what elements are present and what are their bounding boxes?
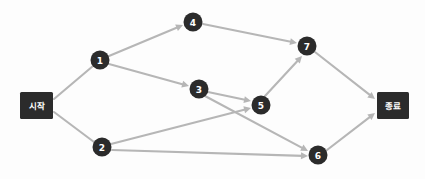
edge-1-3 bbox=[109, 64, 189, 88]
arrowhead-icon bbox=[243, 96, 251, 103]
graph-node-2[interactable]: 2 bbox=[93, 138, 112, 157]
node-label-4: 4 bbox=[190, 18, 196, 28]
edge-6-end bbox=[327, 113, 375, 150]
edge-line bbox=[112, 150, 303, 156]
edge-line bbox=[111, 109, 246, 144]
arrowhead-icon bbox=[301, 152, 308, 159]
terminal-label-start: 시작 bbox=[29, 101, 45, 111]
terminal-label-end: 종료 bbox=[385, 101, 401, 111]
arrowhead-icon bbox=[181, 81, 189, 88]
graph-node-7[interactable]: 7 bbox=[298, 37, 317, 56]
edge-line bbox=[327, 116, 371, 150]
edge-line bbox=[203, 24, 292, 42]
graph-svg: 시작종료1234567 bbox=[0, 0, 425, 179]
node-label-2: 2 bbox=[99, 143, 105, 153]
edge-4-7 bbox=[203, 24, 297, 45]
edge-2-6 bbox=[112, 150, 308, 159]
arrowhead-icon bbox=[243, 106, 251, 113]
diagram-canvas: 시작종료1234567 bbox=[0, 0, 425, 179]
edge-line bbox=[265, 60, 299, 96]
edge-line bbox=[315, 52, 371, 96]
terminal-node-end[interactable]: 종료 bbox=[377, 92, 409, 119]
node-label-3: 3 bbox=[196, 85, 202, 95]
nodes-layer: 시작종료1234567 bbox=[20, 13, 409, 165]
node-label-6: 6 bbox=[315, 151, 321, 161]
edge-7-end bbox=[315, 52, 375, 99]
edge-start-2 bbox=[54, 112, 94, 142]
edge-line bbox=[54, 66, 93, 99]
edge-line bbox=[109, 64, 184, 85]
edge-2-5 bbox=[111, 106, 251, 144]
node-label-5: 5 bbox=[258, 101, 264, 111]
graph-node-1[interactable]: 1 bbox=[91, 51, 110, 70]
terminal-node-start[interactable]: 시작 bbox=[20, 92, 53, 119]
graph-node-6[interactable]: 6 bbox=[309, 146, 328, 165]
edge-1-4 bbox=[109, 24, 183, 56]
edge-line bbox=[208, 92, 246, 100]
graph-node-4[interactable]: 4 bbox=[184, 13, 203, 32]
graph-node-5[interactable]: 5 bbox=[252, 96, 271, 115]
graph-node-3[interactable]: 3 bbox=[190, 80, 209, 99]
edge-line bbox=[109, 27, 178, 56]
node-label-7: 7 bbox=[304, 42, 310, 52]
edge-5-7 bbox=[265, 56, 302, 96]
node-label-1: 1 bbox=[97, 56, 103, 66]
arrowhead-icon bbox=[289, 38, 297, 45]
edge-line bbox=[54, 112, 94, 142]
edge-start-1 bbox=[54, 66, 93, 99]
